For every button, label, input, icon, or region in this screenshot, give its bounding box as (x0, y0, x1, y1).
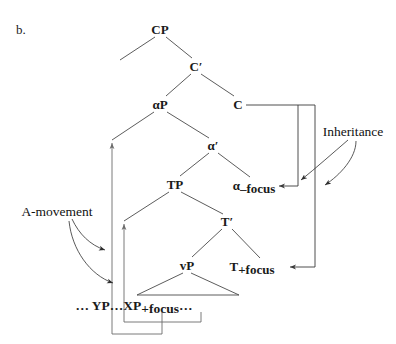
node-labels: CP C′ αP C α′ TP α–focus T′ vP T+focus …… (75, 22, 275, 316)
tree-branches (112, 37, 260, 295)
inheritance-curve-arrow-1 (301, 140, 348, 180)
annotation-a-movement-label: A-movement (21, 204, 92, 219)
branch-tbar-vp (192, 229, 222, 257)
annotation-inheritance-label: Inheritance (323, 124, 384, 139)
branch-tp-tbar (181, 192, 223, 214)
node-alpha-minus-focus-sub: –focus (239, 181, 275, 196)
branch-tbar-tpos (232, 229, 260, 258)
a-movement-curve-arrow-2 (69, 221, 113, 283)
inheritance-path-to-alpha-focus (246, 105, 298, 186)
node-t-plus-focus-base: T (230, 259, 239, 274)
node-t-plus-focus-sub: +focus (238, 262, 274, 277)
tree-diagram-canvas: CP C′ αP C α′ TP α–focus T′ vP T+focus …… (0, 0, 396, 344)
node-tp: TP (167, 177, 184, 192)
branch-cbar-c (201, 74, 234, 96)
triangle-right-edge (191, 273, 239, 295)
branch-cp-cbar (166, 37, 192, 58)
node-cbar: C′ (189, 59, 202, 74)
figure-item-label: b. (16, 22, 26, 37)
node-t-plus-focus: T+focus (230, 259, 275, 277)
branch-cp-left (120, 37, 155, 60)
terminal-string-tail: … (179, 298, 193, 313)
node-c: C (233, 97, 242, 112)
node-vp: vP (180, 258, 195, 273)
branch-tp-left (124, 192, 169, 221)
node-alphap: αP (152, 97, 167, 112)
branch-alphabar-tp (180, 153, 209, 176)
syntax-tree-figure: CP C′ αP C α′ TP α–focus T′ vP T+focus …… (0, 0, 396, 344)
node-alphabar: α′ (208, 138, 219, 153)
branch-alphap-alphabar (167, 112, 209, 138)
node-tbar: T′ (221, 214, 233, 229)
a-movement-curve-arrow-1 (72, 219, 105, 250)
triangle-left-edge (137, 273, 183, 295)
terminal-string-base: … YP…XP (75, 298, 141, 313)
branch-alphap-left (112, 112, 154, 140)
branch-alphabar-alphaneg (218, 153, 250, 177)
node-cp: CP (151, 22, 168, 37)
terminal-string-sub: +focus (141, 301, 179, 316)
branch-cbar-alphap (166, 74, 191, 96)
terminal-string: … YP…XP+focus… (75, 298, 192, 316)
annotation-labels: Inheritance A-movement (21, 124, 383, 219)
node-alpha-minus-focus: α–focus (233, 178, 276, 196)
inheritance-curve-arrow-2 (325, 141, 356, 185)
